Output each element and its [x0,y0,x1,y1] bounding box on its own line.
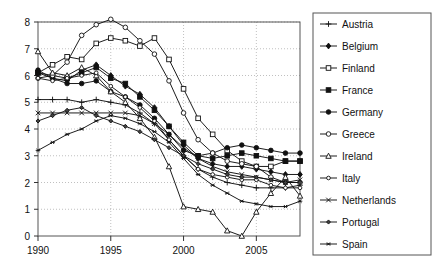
marker-open-circle [79,33,84,38]
marker-filled-square [167,124,172,129]
marker-open-circle-small [109,84,113,88]
marker-open-square [269,164,274,169]
y-axis-tick-label: 6 [24,71,30,82]
series-line [38,19,300,182]
marker-filled-square [94,65,99,70]
series-portugal [36,106,302,185]
marker-open-triangle [123,99,128,104]
marker-filled-diamond-small [123,124,127,128]
marker-filled-square [123,81,128,86]
y-axis-tick-label: 0 [24,231,30,242]
marker-open-circle-small [327,176,331,180]
marker-open-circle-small [269,183,273,187]
marker-open-circle [239,161,244,166]
line-chart: 0123456781990199520002005AustriaBelgiumF… [0,0,438,268]
marker-open-circle-small [36,76,40,80]
marker-open-triangle [166,164,171,169]
legend-label: Italy [342,173,360,184]
marker-open-triangle [35,49,40,54]
legend-label: France [342,85,374,96]
marker-filled-square [210,156,215,161]
marker-filled-circle [326,110,331,115]
marker-open-square [79,57,84,62]
marker-open-circle [167,79,172,84]
marker-filled-circle [79,81,84,86]
marker-open-square [94,41,99,46]
marker-filled-circle [254,145,259,150]
marker-filled-square [181,140,186,145]
marker-filled-circle [65,81,70,86]
chart-container: 0123456781990199520002005AustriaBelgiumF… [0,0,438,268]
marker-open-circle-small [51,79,55,83]
legend-label: Belgium [342,41,378,52]
marker-open-circle-small [65,76,69,80]
marker-open-circle-small [138,106,142,110]
marker-open-triangle [79,65,84,70]
legend-label: Spain [342,239,368,250]
marker-filled-circle [269,148,274,153]
marker-open-circle-small [94,71,98,75]
marker-filled-diamond-small [196,162,200,166]
marker-open-square [138,44,143,49]
marker-filled-square [152,108,157,113]
marker-open-circle [138,38,143,43]
y-axis-tick-label: 1 [24,204,30,215]
legend-label: Austria [342,19,374,30]
legend-label: Netherlands [342,195,396,206]
marker-filled-square [283,159,288,164]
marker-open-square [108,36,113,41]
marker-open-square [326,66,331,71]
legend-label: Ireland [342,151,373,162]
y-axis-tick-label: 2 [24,178,30,189]
marker-filled-diamond-small [80,106,84,110]
marker-filled-diamond [225,164,230,170]
marker-open-square [196,116,201,121]
y-axis-tick-label: 7 [24,44,30,55]
marker-filled-square [225,153,230,158]
marker-open-circle-small [284,186,288,190]
marker-open-circle [210,151,215,156]
marker-filled-circle [225,145,230,150]
marker-open-circle [225,159,230,164]
marker-open-circle-small [80,74,84,78]
y-axis-tick-label: 5 [24,97,30,108]
y-axis-tick-label: 4 [24,124,30,135]
marker-open-square [167,57,172,62]
marker-open-circle-small [298,186,302,190]
legend-label: Greece [342,129,375,140]
x-axis-tick-label: 2005 [245,245,268,256]
marker-open-circle [196,137,201,142]
y-axis-tick-label: 8 [24,17,30,28]
marker-filled-square [326,88,331,93]
legend-label: Germany [342,107,383,118]
legend-label: Finland [342,63,375,74]
marker-filled-circle [239,143,244,148]
marker-open-circle [326,132,331,137]
marker-open-circle [108,17,113,22]
x-axis-tick-label: 1990 [27,245,50,256]
marker-open-circle-small [123,95,127,99]
marker-filled-square [108,76,113,81]
marker-open-circle [94,22,99,27]
marker-open-circle [152,52,157,57]
marker-filled-square [298,159,303,164]
marker-open-circle [65,60,70,65]
marker-filled-circle [36,68,41,73]
marker-open-square [50,63,55,68]
marker-open-circle-small [196,167,200,171]
marker-filled-diamond-small [36,119,40,123]
marker-filled-diamond-small [138,130,142,134]
marker-filled-diamond [269,169,274,175]
marker-open-triangle [181,204,186,209]
marker-filled-square [269,156,274,161]
marker-open-circle-small [211,173,215,177]
marker-open-square [210,132,215,137]
marker-filled-square [239,151,244,156]
y-axis-tick-label: 3 [24,151,30,162]
marker-open-square [181,87,186,92]
marker-open-circle [254,164,259,169]
marker-filled-square [254,153,259,158]
marker-filled-circle [283,151,288,156]
marker-filled-circle [94,79,99,84]
marker-filled-circle [298,151,303,156]
